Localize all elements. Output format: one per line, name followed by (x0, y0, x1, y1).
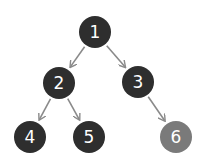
node-label: 5 (84, 127, 95, 147)
edge-arrow-1-2 (71, 47, 85, 67)
tree-node-3: 3 (122, 66, 154, 98)
nodes-group: 123456 (14, 16, 192, 153)
tree-node-6: 6 (160, 121, 192, 153)
tree-node-5: 5 (73, 121, 105, 153)
tree-node-2: 2 (43, 67, 75, 99)
node-label: 4 (25, 127, 36, 147)
edge-arrow-1-3 (107, 46, 125, 67)
node-label: 2 (54, 73, 65, 93)
tree-node-1: 1 (79, 16, 111, 48)
edge-arrow-2-4 (39, 99, 50, 120)
node-label: 6 (171, 127, 182, 147)
tree-node-4: 4 (14, 121, 46, 153)
tree-diagram: 123456 (0, 0, 203, 165)
tree-svg: 123456 (0, 0, 203, 165)
edge-arrow-3-6 (148, 97, 164, 121)
node-label: 1 (90, 22, 101, 42)
edge-arrow-2-5 (68, 99, 80, 120)
node-label: 3 (133, 72, 144, 92)
